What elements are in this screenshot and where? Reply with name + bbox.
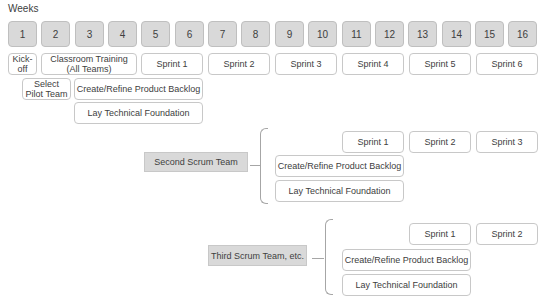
week-box-5: 5	[141, 21, 170, 47]
third-lay-technical-foundation-task: Lay Technical Foundation	[342, 274, 471, 296]
third-create-refine-backlog-task: Create/Refine Product Backlog	[342, 249, 471, 271]
third-sprint-1: Sprint 1	[409, 223, 471, 245]
weeks-label: Weeks	[8, 3, 38, 14]
third-scrum-team-label: Third Scrum Team, etc.	[208, 245, 307, 266]
week-box-16: 16	[508, 21, 537, 47]
week-box-15: 15	[475, 21, 504, 47]
week-box-10: 10	[308, 21, 337, 47]
second-lay-technical-foundation-task: Lay Technical Foundation	[275, 180, 404, 202]
week-box-4: 4	[108, 21, 137, 47]
third-team-connector	[312, 258, 324, 259]
pilot-sprint-2: Sprint 2	[208, 53, 270, 75]
third-team-brace	[325, 219, 333, 295]
pilot-create-refine-backlog-task: Create/Refine Product Backlog	[74, 78, 203, 100]
week-box-2: 2	[41, 21, 70, 47]
week-box-13: 13	[408, 21, 437, 47]
pilot-sprint-3: Sprint 3	[275, 53, 337, 75]
week-box-6: 6	[175, 21, 204, 47]
third-sprint-2: Sprint 2	[476, 223, 538, 245]
week-box-11: 11	[342, 21, 371, 47]
week-box-7: 7	[208, 21, 237, 47]
week-box-8: 8	[241, 21, 270, 47]
second-team-brace	[260, 128, 268, 204]
kickoff-task: Kick- off	[8, 53, 37, 75]
pilot-sprint-5: Sprint 5	[409, 53, 471, 75]
pilot-sprint-6: Sprint 6	[476, 53, 538, 75]
classroom-training-task: Classroom Training (All Teams)	[41, 53, 137, 75]
second-sprint-1: Sprint 1	[342, 131, 404, 153]
pilot-sprint-1: Sprint 1	[141, 53, 203, 75]
select-pilot-team-task: Select Pilot Team	[22, 78, 71, 100]
pilot-lay-technical-foundation-task: Lay Technical Foundation	[74, 102, 203, 124]
second-team-connector	[250, 165, 260, 166]
second-scrum-team-label: Second Scrum Team	[144, 152, 248, 172]
week-box-14: 14	[442, 21, 471, 47]
week-box-1: 1	[8, 21, 37, 47]
second-create-refine-backlog-task: Create/Refine Product Backlog	[275, 155, 404, 177]
pilot-sprint-4: Sprint 4	[342, 53, 404, 75]
week-box-3: 3	[75, 21, 104, 47]
second-sprint-2: Sprint 2	[409, 131, 471, 153]
week-box-9: 9	[275, 21, 304, 47]
week-box-12: 12	[375, 21, 404, 47]
second-sprint-3: Sprint 3	[476, 131, 538, 153]
